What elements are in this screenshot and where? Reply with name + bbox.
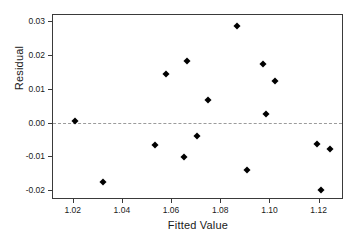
y-axis-title: Residual [13, 13, 25, 123]
data-point [244, 166, 251, 173]
data-point [233, 22, 240, 29]
data-point [163, 70, 170, 77]
x-axis-tick [171, 198, 172, 203]
y-axis-tick-label: 0.01 [28, 84, 45, 94]
data-point [313, 140, 320, 147]
data-point [260, 61, 267, 68]
data-point [194, 133, 201, 140]
x-axis-tick [319, 198, 320, 203]
x-axis-tick-label: 1.02 [64, 205, 81, 215]
x-axis-tick-label: 1.04 [114, 205, 131, 215]
y-axis-tick [48, 190, 53, 191]
data-point [326, 145, 333, 152]
data-point [183, 57, 190, 64]
x-axis-title: Fitted Value [52, 219, 344, 231]
x-axis-tick [122, 198, 123, 203]
data-point [317, 186, 324, 193]
y-axis-tick-label: -0.02 [26, 185, 45, 195]
x-axis-tick-label: 1.12 [310, 205, 327, 215]
x-axis-tick-label: 1.06 [163, 205, 180, 215]
data-point [100, 179, 107, 186]
x-axis-tick [269, 198, 270, 203]
x-axis-tick [73, 198, 74, 203]
zero-reference-line [53, 123, 342, 124]
y-axis-tick-label: 0.00 [28, 118, 45, 128]
x-axis-tick [220, 198, 221, 203]
data-point [263, 111, 270, 118]
y-axis-tick-label: 0.02 [28, 50, 45, 60]
x-axis-tick-label: 1.10 [261, 205, 278, 215]
plot-area: -0.02-0.010.000.010.020.031.021.041.061.… [52, 14, 343, 199]
data-point [181, 154, 188, 161]
data-point [204, 96, 211, 103]
y-axis-tick [48, 156, 53, 157]
data-point [72, 118, 79, 125]
y-axis-tick-label: 0.03 [28, 16, 45, 26]
x-axis-tick-label: 1.08 [212, 205, 229, 215]
y-axis-tick [48, 55, 53, 56]
y-axis-tick [48, 89, 53, 90]
data-canvas: -0.02-0.010.000.010.020.031.021.041.061.… [53, 15, 342, 198]
data-point [151, 141, 158, 148]
residual-vs-fitted-chart: Residual -0.02-0.010.000.010.020.031.021… [0, 0, 364, 240]
data-point [271, 78, 278, 85]
y-axis-tick-label: -0.01 [26, 151, 45, 161]
y-axis-tick [48, 21, 53, 22]
